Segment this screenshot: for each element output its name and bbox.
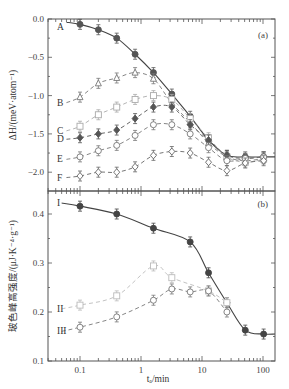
y-tick-label: 0.2 xyxy=(33,307,44,317)
data-point xyxy=(150,104,156,111)
y-tick-label: 0.3 xyxy=(33,258,45,268)
data-point xyxy=(77,173,83,180)
data-point xyxy=(132,96,138,102)
data-point xyxy=(77,94,83,100)
panel-b-series-labels: IIIIII xyxy=(57,198,67,336)
data-point xyxy=(187,131,193,137)
data-point xyxy=(150,93,156,99)
x-tick-label: 1 xyxy=(139,365,144,375)
panel-a-label: (a) xyxy=(258,30,268,40)
data-point xyxy=(114,127,120,134)
series-label: D xyxy=(57,134,64,144)
series-label: A xyxy=(57,22,64,32)
panel-a-y-axis-title: ΔH/(meV·atom⁻¹) xyxy=(8,70,19,140)
data-point xyxy=(187,239,193,245)
data-point xyxy=(114,314,120,320)
data-point xyxy=(169,148,175,155)
data-point xyxy=(77,324,83,330)
fit-curve xyxy=(66,123,263,161)
data-point xyxy=(95,130,101,137)
data-point xyxy=(77,302,83,308)
data-point xyxy=(242,327,248,333)
x-tick-label: 10 xyxy=(198,365,208,375)
data-point xyxy=(224,309,230,315)
data-point xyxy=(206,270,212,276)
fit-curve xyxy=(62,265,227,308)
series-label: E xyxy=(57,154,63,164)
x-tick-label: 0.1 xyxy=(74,365,85,375)
y-tick-label: −2.0 xyxy=(28,167,45,177)
x-axis-title: tₐ/min xyxy=(147,374,170,384)
data-point xyxy=(150,225,156,231)
panel-a: 0.0−0.5−1.0−1.5−2.0 (a) ΔH/(meV·atom⁻¹) … xyxy=(8,14,275,191)
series-label: F xyxy=(57,173,62,183)
data-point xyxy=(114,211,120,217)
data-point xyxy=(95,80,101,86)
data-point xyxy=(132,51,138,57)
panel-b-y-axis-title: 玻色峰高强度/(μJ·K⁻⁴·g⁻¹) xyxy=(7,220,19,332)
y-tick-label: 0.1 xyxy=(33,356,44,366)
data-point xyxy=(169,122,175,128)
panel-b-y-ticks: 0.40.30.20.1 xyxy=(33,209,275,366)
x-axis-ticks: 0.1110100 xyxy=(48,19,270,375)
series-label: II xyxy=(57,304,63,314)
fit-curve xyxy=(62,203,275,334)
data-point xyxy=(224,158,230,164)
data-point xyxy=(95,169,101,176)
panel-b-frame xyxy=(48,191,275,361)
data-point xyxy=(77,123,83,129)
data-point xyxy=(187,289,193,295)
data-point xyxy=(95,27,101,33)
data-point xyxy=(169,96,175,102)
series-label: III xyxy=(57,326,67,336)
panel-a-series-labels: ABCDEF xyxy=(57,22,64,183)
data-point xyxy=(150,263,156,269)
data-point xyxy=(187,150,193,157)
data-point xyxy=(169,275,175,281)
data-point xyxy=(114,35,120,41)
panel-b-fit-curves xyxy=(62,203,275,334)
series-label: I xyxy=(57,198,60,208)
data-point xyxy=(132,163,138,170)
data-point xyxy=(132,69,138,75)
panel-b-data-points xyxy=(77,201,267,339)
data-point xyxy=(114,142,120,148)
y-tick-label: −1.0 xyxy=(28,91,45,101)
data-point xyxy=(206,159,212,166)
data-point xyxy=(132,132,138,138)
data-point xyxy=(150,152,156,159)
fit-curve xyxy=(62,289,227,332)
y-tick-label: 0.0 xyxy=(33,14,45,24)
data-point xyxy=(150,297,156,303)
data-point xyxy=(132,115,138,122)
y-tick-label: 0.4 xyxy=(33,209,45,219)
y-tick-label: −0.5 xyxy=(28,52,45,62)
data-point xyxy=(150,122,156,128)
data-point xyxy=(206,145,212,151)
data-point xyxy=(77,134,83,141)
panel-b-label: (b) xyxy=(258,199,269,209)
data-point xyxy=(206,288,212,294)
data-point xyxy=(95,148,101,154)
data-point xyxy=(77,154,83,160)
data-point xyxy=(224,167,230,174)
data-point xyxy=(114,169,120,176)
panel-b: 0.40.30.20.1 (b) 玻色峰高强度/(μJ·K⁻⁴·g⁻¹) III… xyxy=(7,191,275,366)
data-point xyxy=(150,75,156,81)
data-point xyxy=(224,300,230,306)
data-point xyxy=(261,331,267,337)
figure: 0.0−0.5−1.0−1.5−2.0 (a) ΔH/(meV·atom⁻¹) … xyxy=(0,0,289,389)
data-point xyxy=(169,286,175,292)
data-point xyxy=(95,112,101,118)
y-tick-label: −1.5 xyxy=(28,129,45,139)
series-label: B xyxy=(57,98,63,108)
x-tick-label: 100 xyxy=(256,365,270,375)
data-point xyxy=(77,203,83,209)
data-point xyxy=(114,293,120,299)
data-point xyxy=(114,104,120,110)
